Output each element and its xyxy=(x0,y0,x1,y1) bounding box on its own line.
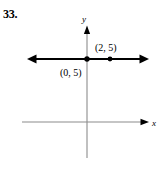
line-left-arrowhead-icon xyxy=(27,55,37,64)
line-right-arrowhead-icon xyxy=(140,55,150,64)
y-axis-label: y xyxy=(81,14,86,24)
x-axis xyxy=(22,119,149,126)
y-axis-arrowhead-icon xyxy=(84,26,90,35)
y-axis xyxy=(84,26,90,159)
x-axis-arrowhead-icon xyxy=(141,119,150,126)
figure-container: 33. y x (0, 5) (2, 5) xyxy=(0,0,166,169)
point-label-left: (0, 5) xyxy=(60,67,82,79)
coordinate-graph: y x (0, 5) (2, 5) xyxy=(0,0,166,169)
point-label-right: (2, 5) xyxy=(95,42,117,54)
x-axis-label: x xyxy=(151,118,156,128)
data-point-0-5 xyxy=(84,56,89,61)
data-point-2-5 xyxy=(108,57,113,62)
